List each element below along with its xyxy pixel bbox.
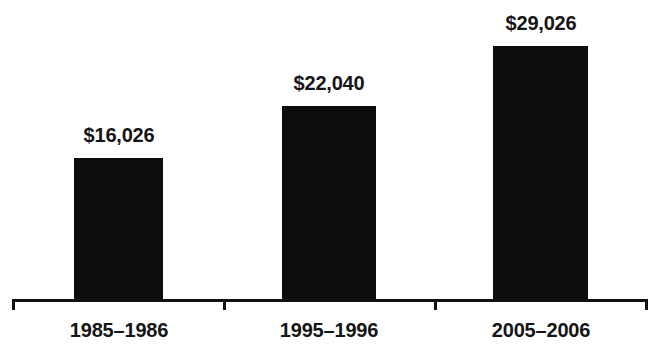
axis-tick-right-end [645,299,648,310]
axis-tick-left-end [12,299,15,310]
value-label-1995-1996: $22,040 [244,72,414,95]
value-label-1985-1986: $16,026 [34,124,204,147]
bar-2005-2006 [493,46,588,302]
value-label-2005-2006: $29,026 [456,12,626,35]
bar-1995-1996 [282,106,376,302]
category-label-2005-2006: 2005–2006 [455,319,627,342]
category-label-1995-1996: 1995–1996 [243,319,415,342]
axis-tick-separator-2 [434,299,437,310]
bar-1985-1986 [74,158,163,302]
x-axis-line [12,299,648,302]
plot-area: $16,026 $22,040 $29,026 1985–1986 1995–1… [0,0,660,355]
axis-tick-separator-1 [223,299,226,310]
bar-chart: $16,026 $22,040 $29,026 1985–1986 1995–1… [0,0,660,355]
category-label-1985-1986: 1985–1986 [33,319,205,342]
